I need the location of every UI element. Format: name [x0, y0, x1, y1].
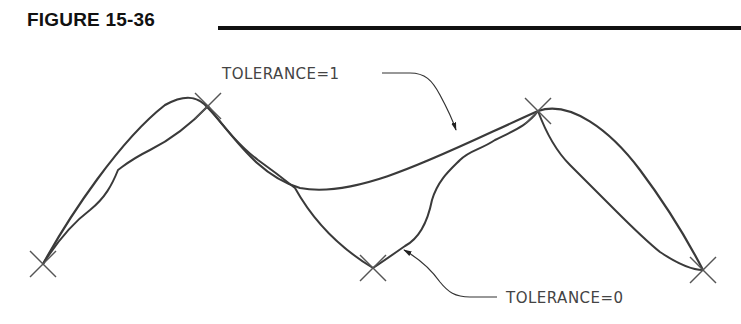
- fit-point-marker-3: [360, 255, 386, 281]
- fit-point-marker-2: [195, 93, 221, 119]
- leader-tolerance-1: [382, 73, 456, 130]
- leader-tolerance-0: [404, 250, 497, 297]
- spline-diagram: TOLERANCE=1 TOLERANCE=0: [0, 0, 741, 324]
- fit-point-marker-1: [30, 251, 56, 277]
- fit-point-marker-4: [525, 98, 551, 124]
- label-tolerance-0: TOLERANCE=0: [505, 289, 624, 307]
- spline-tolerance-1: [43, 98, 703, 270]
- label-tolerance-1: TOLERANCE=1: [221, 65, 340, 83]
- fit-point-marker-5: [690, 257, 716, 283]
